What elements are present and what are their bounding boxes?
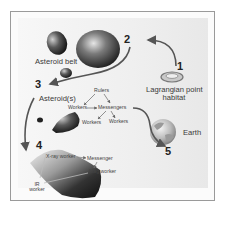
step-2-number: 2 <box>124 34 130 45</box>
workers-bottom-right-label: Workers <box>109 119 128 124</box>
messenger-label: Messenger <box>87 156 113 161</box>
habitat-icon <box>161 72 183 82</box>
rulers-label: Rulers <box>94 88 109 93</box>
messengers-label: Messengers <box>98 105 126 110</box>
asteroid-belt-rocks <box>43 28 120 78</box>
asteroid-belt-label: Asteroid belt <box>35 58 77 66</box>
step-3-number: 3 <box>35 79 41 90</box>
ir-worker-label-line2: worker <box>26 187 48 192</box>
ir-worker-label: IR worker <box>26 182 48 192</box>
arrow-1-to-2 <box>148 40 176 66</box>
asteroid-rocks <box>37 112 79 133</box>
lagrangian-label: Lagrangian point habitat <box>146 86 202 101</box>
earth-label: Earth <box>183 129 201 137</box>
earth-globe-icon <box>150 119 176 145</box>
xray-worker-label: X-ray worker <box>46 154 75 159</box>
workers-bottom-left-label: Workers <box>82 120 101 125</box>
arrow-3-to-4 <box>25 98 34 150</box>
lagrangian-label-line2: habitat <box>146 94 202 102</box>
step-1-number: 1 <box>177 61 183 72</box>
step-4-number: 4 <box>36 140 42 151</box>
mag-worker-label: Mag worker <box>89 169 116 174</box>
asteroids-label: Asteroid(s) <box>39 95 76 103</box>
workers-left-label: Workers <box>68 105 87 110</box>
step-5-number: 5 <box>165 146 171 157</box>
